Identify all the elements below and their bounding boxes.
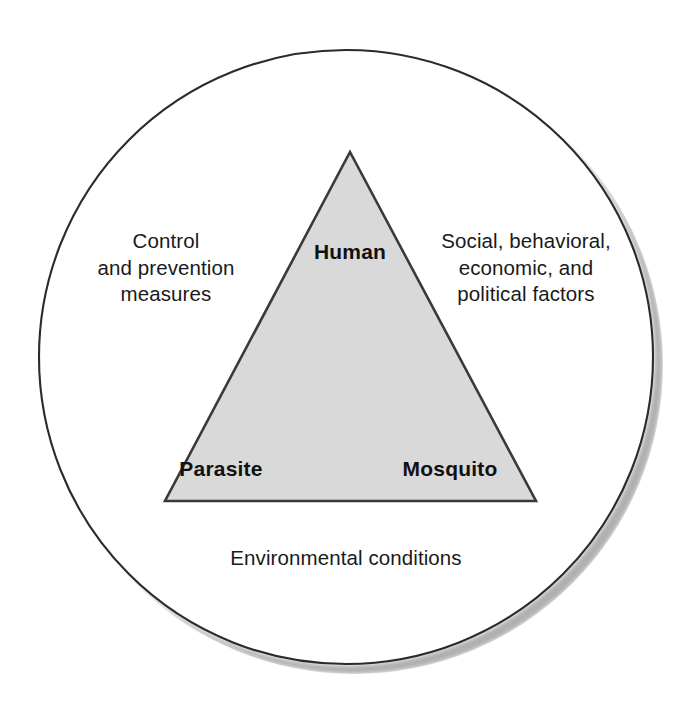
diagram-figure: [0, 0, 692, 718]
label-control-and-prevention-measures: Control and prevention measures: [62, 228, 270, 308]
diagram-canvas: Control and prevention measures Social, …: [0, 0, 692, 718]
label-environmental-conditions: Environmental conditions: [171, 545, 521, 572]
triangle-vertex-label-human: Human: [290, 238, 410, 265]
label-social-behavioral-economic-political-factors: Social, behavioral, economic, and politi…: [420, 228, 632, 308]
triangle-vertex-label-mosquito: Mosquito: [365, 455, 535, 482]
triangle-vertex-label-parasite: Parasite: [141, 455, 301, 482]
